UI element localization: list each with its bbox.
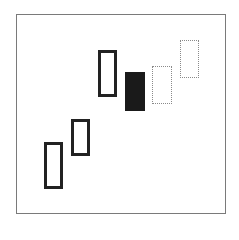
candle-3-hollow [98,50,117,97]
candle-2-hollow [71,119,90,156]
candle-4-filled [125,72,145,111]
candle-5-dotted [152,66,172,104]
candle-6-dotted [180,40,199,78]
candle-1-hollow [44,142,63,189]
